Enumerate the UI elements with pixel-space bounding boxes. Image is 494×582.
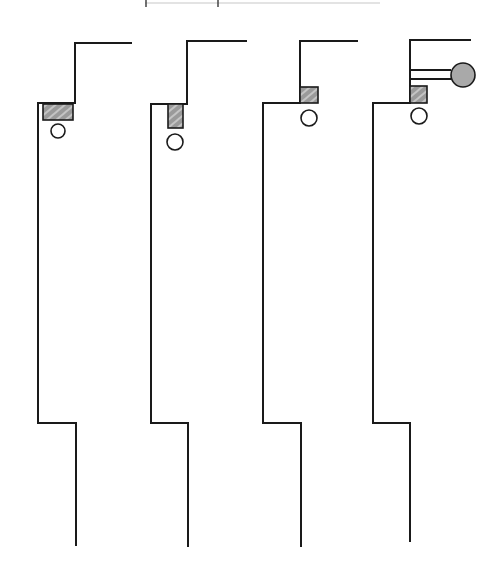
figure-4 xyxy=(373,40,475,541)
small-circle-icon xyxy=(167,134,183,150)
small-circle-icon xyxy=(51,124,65,138)
figure-group xyxy=(38,40,475,546)
shaded-block xyxy=(43,104,73,120)
figure-3 xyxy=(263,41,357,546)
shaded-block xyxy=(168,104,183,128)
shaded-block xyxy=(410,86,427,103)
figure-1 xyxy=(38,43,131,545)
stepped-wall-outline xyxy=(151,41,246,546)
shaded-block xyxy=(300,87,318,103)
cropped-top-edge xyxy=(145,0,380,7)
diagram-canvas xyxy=(0,0,494,582)
ball-icon xyxy=(451,63,475,87)
small-circle-icon xyxy=(301,110,317,126)
small-circle-icon xyxy=(411,108,427,124)
figure-2 xyxy=(151,41,246,546)
